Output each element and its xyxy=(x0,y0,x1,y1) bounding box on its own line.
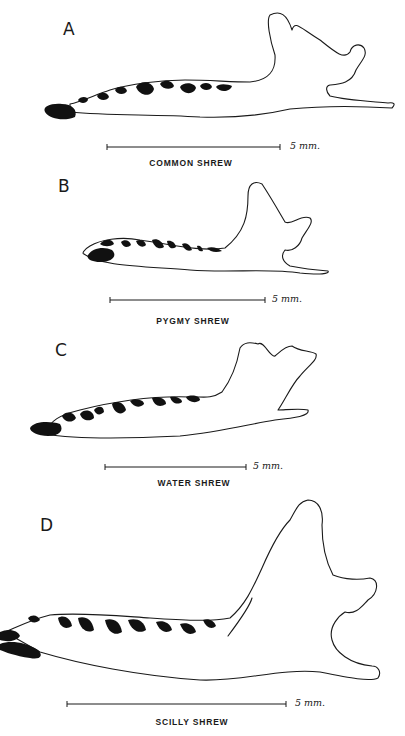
scale-label-c: 5 mm. xyxy=(253,460,283,471)
jaw-water-shrew xyxy=(30,343,316,438)
caption-common-shrew: COMMON SHREW xyxy=(149,158,232,168)
scale-label-b: 5 mm. xyxy=(272,293,302,304)
jaw-common-shrew xyxy=(44,13,394,119)
panel-label-d: D xyxy=(40,515,53,535)
caption-scilly-shrew: SCILLY SHREW xyxy=(156,717,229,727)
scale-bar-a xyxy=(107,144,280,150)
scale-bar-b xyxy=(110,297,265,303)
scale-bar-c xyxy=(105,464,246,470)
panel-label-c: C xyxy=(55,340,67,360)
scale-label-d: 5 mm. xyxy=(295,697,325,708)
jaw-scilly-shrew xyxy=(0,500,380,680)
scale-label-a: 5 mm. xyxy=(290,140,320,151)
figure-drawings xyxy=(0,0,405,736)
caption-water-shrew: WATER SHREW xyxy=(158,478,231,488)
jaw-pygmy-shrew xyxy=(83,183,328,275)
panel-label-b: B xyxy=(58,176,70,196)
caption-pygmy-shrew: PYGMY SHREW xyxy=(156,316,229,326)
panel-label-a: A xyxy=(63,19,75,39)
scale-bar-d xyxy=(67,701,286,707)
